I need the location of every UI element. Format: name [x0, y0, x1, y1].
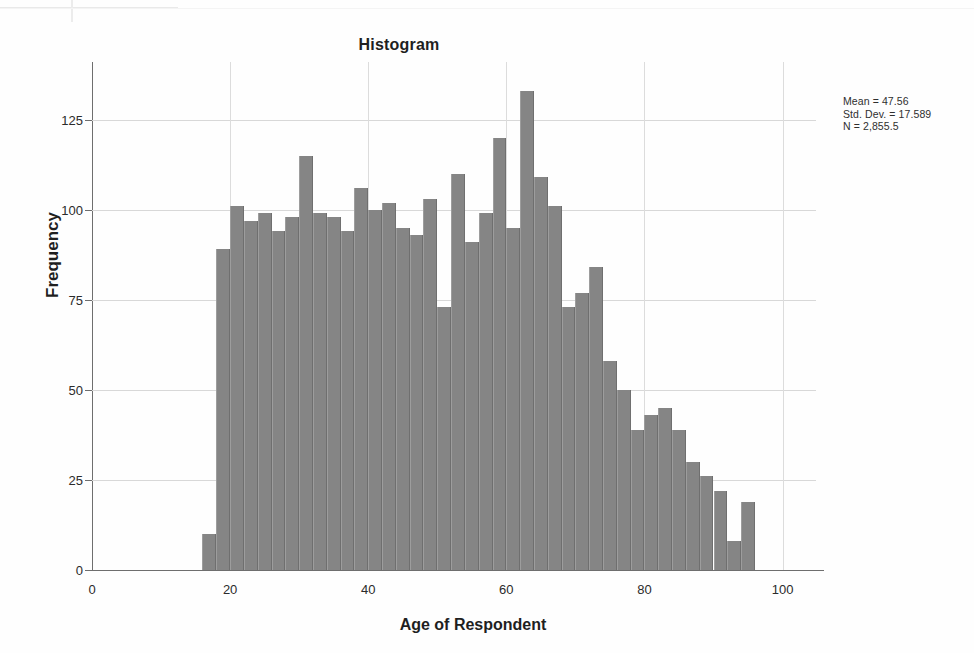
plot-area: 0255075100125 020406080100 [92, 62, 824, 570]
y-tick-mark [85, 120, 92, 121]
histogram-bar [410, 235, 424, 570]
histogram-bar [479, 213, 493, 570]
y-tick-label: 125 [61, 112, 83, 127]
chart-title: Histogram [0, 36, 974, 54]
histogram-bar [368, 210, 382, 570]
histogram-bar [258, 213, 272, 570]
x-tick-label: 80 [637, 582, 651, 597]
histogram-bar [562, 307, 576, 570]
histogram-bar [741, 502, 755, 570]
stat-n: N = 2,855.5 [843, 120, 931, 133]
x-tick-label: 40 [361, 582, 375, 597]
histogram-bar [437, 307, 451, 570]
y-tick-label: 100 [61, 202, 83, 217]
x-tick-label: 20 [223, 582, 237, 597]
y-tick-label: 0 [76, 563, 83, 578]
x-axis-line [92, 570, 824, 571]
histogram-bar [617, 390, 631, 570]
histogram-bars [92, 62, 824, 570]
y-axis-title: Frequency [43, 212, 63, 298]
histogram-bar [327, 217, 341, 570]
histogram-bar [382, 203, 396, 570]
histogram-bar [313, 213, 327, 570]
scan-artifact-vertical [71, 0, 73, 22]
x-tick-label: 60 [499, 582, 513, 597]
stat-mean: Mean = 47.56 [843, 95, 931, 108]
histogram-bar [548, 206, 562, 570]
scan-artifact-page-edge [0, 8, 974, 9]
histogram-bar [272, 231, 286, 570]
histogram-bar [354, 188, 368, 570]
histogram-bar [534, 177, 548, 570]
histogram-bar [230, 206, 244, 570]
histogram-bar [727, 541, 741, 570]
histogram-bar [631, 430, 645, 571]
histogram-bar [672, 430, 686, 571]
y-tick-mark [85, 300, 92, 301]
histogram-bar [700, 476, 714, 570]
y-tick-mark [85, 210, 92, 211]
histogram-bar [575, 293, 589, 570]
histogram-bar [465, 242, 479, 570]
y-tick-label: 25 [69, 472, 83, 487]
x-axis-title: Age of Respondent [136, 616, 810, 634]
histogram-bar [589, 267, 603, 570]
statistics-annotation: Mean = 47.56 Std. Dev. = 17.589 N = 2,85… [843, 95, 931, 133]
histogram-bar [506, 228, 520, 570]
y-tick-mark [85, 570, 92, 571]
y-tick-mark [85, 390, 92, 391]
histogram-page: Histogram 0255075100125 020406080100 Age… [0, 0, 974, 653]
histogram-bar [244, 221, 258, 570]
x-tick-label: 0 [88, 582, 95, 597]
histogram-bar [520, 91, 534, 570]
histogram-bar [493, 138, 507, 570]
histogram-bar [658, 408, 672, 570]
stat-std-dev: Std. Dev. = 17.589 [843, 108, 931, 121]
histogram-bar [451, 174, 465, 570]
histogram-bar [396, 228, 410, 570]
y-tick-label: 50 [69, 382, 83, 397]
histogram-bar [686, 462, 700, 570]
histogram-bar [202, 534, 216, 570]
x-tick-label: 100 [772, 582, 794, 597]
histogram-bar [216, 249, 230, 570]
histogram-bar [285, 217, 299, 570]
histogram-bar [714, 491, 728, 570]
histogram-bar [603, 361, 617, 570]
y-tick-mark [85, 480, 92, 481]
histogram-bar [341, 231, 355, 570]
chart-title-text: Histogram [359, 36, 440, 53]
histogram-bar [299, 156, 313, 570]
histogram-bar [644, 415, 658, 570]
histogram-bar [423, 199, 437, 570]
y-tick-label: 75 [69, 292, 83, 307]
